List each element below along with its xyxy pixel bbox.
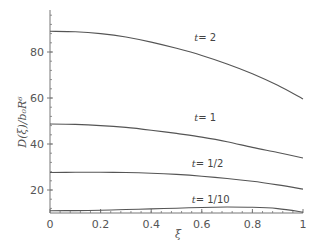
curve-t1-10 [50, 207, 303, 212]
line-chart: 2040608000.20.40.60.81 t= 2t= 1t= 1/2t= … [0, 0, 319, 249]
x-tick-label: 0.6 [193, 218, 211, 231]
curve-labels: t= 2t= 1t= 1/2t= 1/10 [192, 32, 230, 206]
x-tick-label: 0.8 [244, 218, 262, 231]
curves [50, 31, 303, 212]
curve-label-t2: t= 2 [194, 32, 216, 43]
curve-t1 [50, 124, 303, 158]
y-tick-label: 40 [30, 138, 44, 151]
curve-label-t1-10: t= 1/10 [192, 194, 230, 205]
x-axis-label: ξ [175, 228, 182, 241]
x-tick-label: 1 [300, 218, 307, 231]
y-tick-label: 20 [30, 184, 44, 197]
x-tick-label: 0 [47, 218, 54, 231]
axes: 2040608000.20.40.60.81 [30, 10, 307, 231]
curve-label-t1-2: t= 1/2 [192, 158, 224, 169]
x-tick-label: 0.2 [92, 218, 110, 231]
curve-t1-2 [50, 172, 303, 189]
y-tick-label: 80 [30, 46, 44, 59]
y-tick-label: 60 [30, 92, 44, 105]
curve-label-t1: t= 1 [194, 112, 216, 123]
y-axis-label: D(ξ)/b₀R⁶ [16, 96, 29, 149]
x-tick-label: 0.4 [142, 218, 160, 231]
curve-t2 [50, 31, 303, 99]
